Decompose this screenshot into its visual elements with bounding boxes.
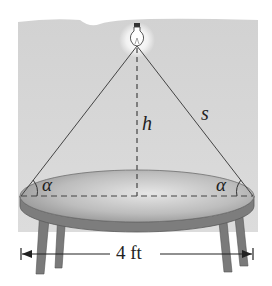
label-diameter: 4 ft: [112, 242, 146, 264]
label-slant: s: [201, 102, 209, 125]
label-angle-left: α: [42, 174, 52, 196]
label-height: h: [142, 112, 152, 135]
label-angle-right: α: [216, 174, 226, 196]
